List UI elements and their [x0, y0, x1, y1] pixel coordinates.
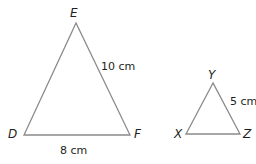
vertex-label-y: Y	[208, 68, 217, 82]
vertex-label-d: D	[8, 127, 17, 141]
side-yz-length: 5 cm	[230, 95, 256, 108]
triangle-xyz: Y X Z 5 cm	[173, 68, 256, 141]
side-df-length: 8 cm	[60, 144, 87, 157]
vertex-label-z: Z	[242, 127, 252, 141]
triangle-def: E D F 10 cm 8 cm	[8, 6, 142, 157]
vertex-label-f: F	[134, 127, 142, 141]
vertex-label-x: X	[173, 127, 183, 141]
triangle-xyz-outline	[186, 83, 240, 134]
vertex-label-e: E	[70, 6, 78, 20]
similar-triangles-diagram: E D F 10 cm 8 cm Y X Z 5 cm	[0, 0, 256, 164]
side-ef-length: 10 cm	[101, 60, 135, 73]
triangle-def-outline	[24, 23, 130, 135]
